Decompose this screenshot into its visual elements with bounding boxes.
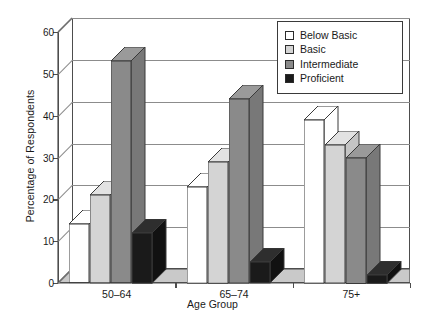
legend-item-intermediate[interactable]: Intermediate xyxy=(285,58,395,71)
bar[interactable] xyxy=(187,187,207,283)
bar[interactable] xyxy=(250,262,270,283)
legend-swatch-intermediate xyxy=(285,60,294,69)
y-axis-tick-label: 60 xyxy=(28,27,54,38)
x-axis-tick-mark xyxy=(293,283,294,288)
bar[interactable] xyxy=(325,145,345,283)
y-axis-tick-label: 40 xyxy=(28,110,54,121)
x-axis-tick-mark xyxy=(175,283,176,288)
bar[interactable] xyxy=(346,158,366,284)
legend-item-proficient[interactable]: Proficient xyxy=(285,72,395,85)
legend-label-intermediate: Intermediate xyxy=(300,58,358,71)
legend-label-basic: Basic xyxy=(300,43,326,56)
gridline xyxy=(72,18,410,19)
bar-3d-shape xyxy=(132,219,168,285)
bar[interactable] xyxy=(90,195,110,283)
bar-3d-shape xyxy=(250,248,286,285)
bar[interactable] xyxy=(367,275,387,283)
bar[interactable] xyxy=(304,120,324,283)
x-axis-title: Age Group xyxy=(0,298,425,310)
legend-item-basic[interactable]: Basic xyxy=(285,43,395,56)
bar-3d-shape xyxy=(367,261,403,285)
bar[interactable] xyxy=(208,162,228,283)
legend-swatch-proficient xyxy=(285,74,294,83)
bar[interactable] xyxy=(69,224,89,283)
bar[interactable] xyxy=(111,61,131,283)
legend: Below Basic Basic Intermediate Proficien… xyxy=(277,21,403,94)
bar-chart: Percentage of Respondents 0102030405060 … xyxy=(0,0,425,320)
bar[interactable] xyxy=(132,233,152,283)
y-axis-tick-label: 20 xyxy=(28,194,54,205)
legend-swatch-basic xyxy=(285,45,294,54)
legend-label-below-basic: Below Basic xyxy=(300,29,357,42)
y-axis-tick-label: 50 xyxy=(28,68,54,79)
bar[interactable] xyxy=(229,99,249,283)
legend-label-proficient: Proficient xyxy=(300,72,344,85)
y-axis-tick-label: 0 xyxy=(28,278,54,289)
y-axis-tick-label: 30 xyxy=(28,152,54,163)
y-axis-tick-label: 10 xyxy=(28,236,54,247)
legend-swatch-below-basic xyxy=(285,31,294,40)
x-axis-tick-mark xyxy=(410,283,411,288)
legend-item-below-basic[interactable]: Below Basic xyxy=(285,29,395,42)
